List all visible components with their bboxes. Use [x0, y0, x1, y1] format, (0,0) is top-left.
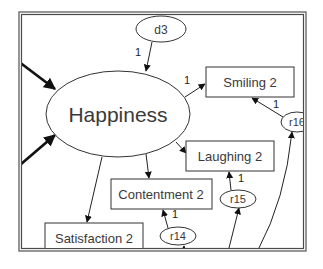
node-label-r14: r14 [170, 230, 186, 242]
node-label-d3: d3 [154, 23, 168, 37]
path-weight-r15: 1 [238, 172, 244, 184]
path-happiness-to-contentment2 [146, 154, 149, 178]
path-weight-d3: 1 [135, 46, 141, 58]
path-happiness-to-satisfaction2 [87, 157, 102, 222]
node-label-r15: r15 [230, 193, 246, 205]
node-happiness[interactable]: Happiness [46, 71, 190, 157]
path-weight-r14: 1 [172, 208, 178, 220]
path-d3-to-happiness [146, 42, 152, 71]
node-label-laughing2: Laughing 2 [198, 149, 262, 164]
sem-diagram-canvas: 1 1 1 1 1 Happiness d3 [0, 0, 323, 269]
node-contentment2[interactable]: Contentment 2 [111, 179, 212, 209]
node-label-r16: r16 [289, 116, 305, 128]
path-r14-to-contentment2 [163, 210, 168, 228]
path-offscreen-bottom-to-r15 [228, 208, 239, 252]
node-label-smiling2: Smiling 2 [223, 75, 276, 90]
node-r14[interactable]: r14 [160, 227, 196, 245]
path-happiness-to-laughing2 [176, 142, 186, 153]
node-r16[interactable]: r16 [281, 112, 313, 132]
path-weight-r16: 1 [273, 98, 279, 110]
path-r15-to-laughing2 [229, 172, 231, 190]
node-label-contentment2: Contentment 2 [118, 187, 203, 202]
node-label-happiness: Happiness [68, 103, 167, 126]
node-label-satisfaction2: Satisfaction 2 [55, 231, 133, 246]
path-weight-smiling2: 1 [184, 74, 190, 86]
node-laughing2[interactable]: Laughing 2 [186, 141, 274, 171]
node-d3[interactable]: d3 [136, 16, 186, 42]
node-r15[interactable]: r15 [220, 190, 256, 208]
path-offscreen-left-2-to-happiness [14, 135, 55, 170]
path-offscreen-left-1-to-happiness [14, 58, 55, 89]
node-smiling2[interactable]: Smiling 2 [206, 67, 294, 97]
